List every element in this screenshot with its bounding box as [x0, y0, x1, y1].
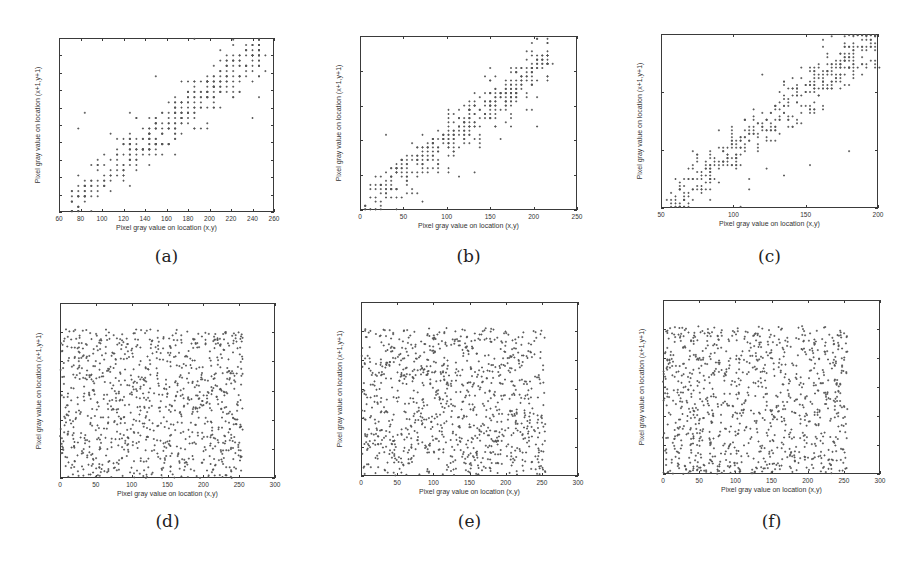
scatter-points — [0, 0, 917, 565]
plus-marker-series — [662, 325, 848, 475]
